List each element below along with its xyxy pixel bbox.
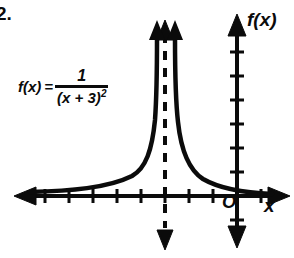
equation-fraction: 1 (x + 3)2 [55,68,108,105]
y-axis-label: f(x) [247,10,277,29]
denominator-exponent: 2 [101,88,107,99]
y-axis-down-arrow [228,226,246,248]
denominator-base: (x + 3) [57,89,101,106]
equation-lhs: f(x) [18,78,41,95]
function-graph [0,0,294,258]
origin-label: O [222,193,236,211]
left-branch [30,38,157,192]
fraction-numerator: 1 [71,68,92,85]
vertical-asymptote [157,20,173,250]
y-axis-up-arrow [228,14,246,36]
equation-equals-sign: = [44,78,53,95]
function-equation: f(x) = 1 (x + 3)2 [18,68,108,105]
asymptote-down-arrow [157,230,173,250]
fraction-denominator: (x + 3)2 [55,88,108,105]
figure-container: 2. [0,0,294,258]
x-axis-label: x [264,196,275,215]
right-branch [175,38,272,194]
